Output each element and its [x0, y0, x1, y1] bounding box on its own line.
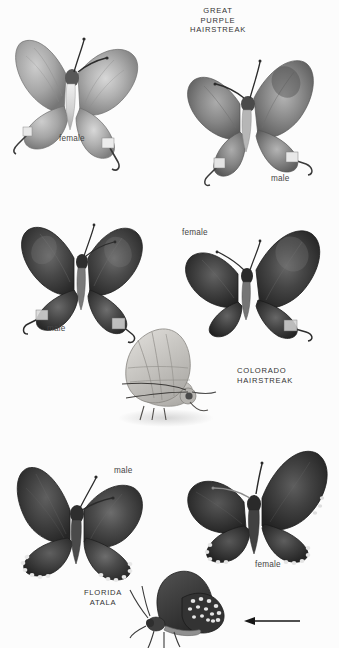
body-thorax-abdomen: [70, 505, 84, 564]
head-and-eye: [180, 388, 196, 404]
wing-left-fore: [17, 467, 70, 543]
wing-right-fore: [254, 61, 313, 138]
butterfly-plate: GREAT PURPLE HAIRSTREAK female male fema…: [0, 0, 339, 648]
tail-left: [205, 166, 218, 185]
specimen-florida-atala-male: [6, 452, 156, 587]
body-thorax-abdomen: [76, 254, 88, 310]
wing-left-hind: [205, 526, 250, 564]
wing-hind-ventral: [182, 593, 224, 633]
wing-right-hind: [256, 130, 312, 175]
body-thorax-abdomen: [247, 495, 261, 554]
specimen-florida-atala-ventral: [130, 568, 270, 648]
wing-left-fore: [22, 227, 74, 295]
label-florida-atala-male: male: [114, 466, 133, 477]
species-label-florida-atala: FLORIDA ATALA: [76, 588, 130, 607]
wing-right-fore: [256, 230, 320, 308]
specimen-colorado-hairstreak-male: [14, 210, 154, 340]
specimen-great-purple-hairstreak-male: [178, 48, 328, 188]
wing-left-hind: [21, 538, 72, 579]
specimen-great-purple-hairstreak-female: [4, 22, 154, 172]
wing-left-fore: [188, 77, 240, 139]
label-great-purple-hairstreak-female: female: [59, 134, 85, 145]
wing-left-fore: [16, 40, 66, 112]
wing-left-hind: [14, 106, 68, 154]
species-label-great-purple-hairstreak: GREAT PURPLE HAIRSTREAK: [170, 6, 266, 35]
wing-right-fore: [84, 485, 142, 547]
species-label-colorado-hairstreak: COLORADO HAIRSTREAK: [237, 366, 301, 385]
wing-right-hind: [256, 300, 312, 341]
wing-right-fore: [262, 451, 327, 530]
tail-right: [110, 148, 119, 170]
label-florida-atala-female: female: [255, 560, 281, 571]
wing-left-fore: [186, 253, 238, 308]
body-thorax-abdomen: [241, 268, 253, 320]
label-great-purple-hairstreak-male: male: [271, 174, 290, 185]
specimen-colorado-hairstreak-ventral: [104, 322, 234, 432]
label-colorado-hairstreak-male: male: [47, 324, 66, 335]
abdomen-pointer-arrow: [242, 614, 302, 628]
wing-left-fore: [188, 481, 246, 533]
wing-left-hind: [205, 132, 246, 185]
label-colorado-hairstreak-female: female: [182, 228, 208, 239]
wing-right-fore: [88, 228, 142, 295]
antennae: [130, 586, 150, 618]
specimen-florida-atala-female: [182, 440, 337, 570]
